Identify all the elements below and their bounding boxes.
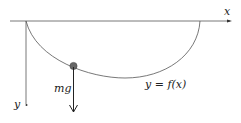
x-axis-arrowhead-icon [227,20,232,23]
y-axis-label: y [13,98,21,111]
curve-label: y = f(x) [144,78,186,91]
diagram-canvas: x y y = f(x) mg [0,0,241,123]
y-axis-end-dot-icon [26,104,28,106]
force-label: mg [54,82,71,95]
x-axis-label: x [224,5,231,18]
curve-f-of-x [26,21,200,78]
